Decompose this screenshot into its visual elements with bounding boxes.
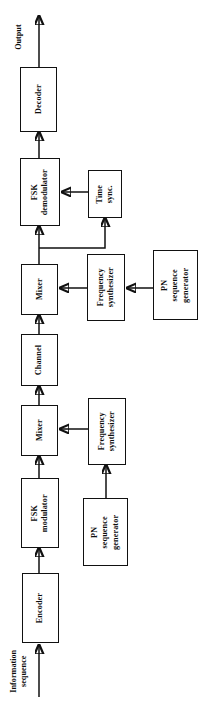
block-decoder[interactable]: Decoder (20, 67, 57, 132)
block-fsk-modulator-label: FSK modulator (30, 494, 51, 532)
block-channel[interactable]: Channel (21, 334, 58, 386)
fsk-mod-line2: modulator (40, 494, 49, 532)
block-time-sync[interactable]: Time sync. (88, 170, 122, 218)
information-sequence-label-text: PNInformationsequence (9, 650, 30, 693)
output-label: Output (6, 8, 32, 66)
block-frequency-synthesizer-receiver[interactable]: Frequency synthesizer (87, 254, 125, 321)
freq-synth-tx-line2: synthesizer (107, 411, 116, 451)
block-fsk-demodulator[interactable]: FSK demodulator (20, 158, 60, 226)
block-pn-sequence-generator-transmitter[interactable]: PN sequence generator (83, 498, 128, 566)
block-mixer-transmitter[interactable]: Mixer (21, 405, 58, 456)
output-label-text: Output (14, 24, 24, 49)
block-decoder-label: Decoder (33, 85, 43, 115)
fsk-demod-line2: demodulator (40, 169, 49, 215)
pn-gen-tx-line1: PN (90, 526, 99, 537)
block-pn-sequence-generator-transmitter-label: PN sequence generator (90, 515, 121, 550)
pn-gen-tx-line3: generator (111, 515, 120, 550)
freq-synth-tx-line1: Frequency (97, 412, 106, 450)
block-diagram: Output PNInformationsequence Decoder FSK… (0, 0, 211, 709)
block-channel-label: Channel (34, 345, 44, 375)
pn-gen-rx-line3: generator (181, 268, 190, 303)
block-mixer-receiver-label: Mixer (34, 279, 44, 301)
block-fsk-modulator[interactable]: FSK modulator (21, 478, 59, 548)
block-encoder-label: Encoder (35, 593, 45, 623)
block-frequency-synthesizer-receiver-label: Frequency synthesizer (96, 267, 117, 307)
block-fsk-demodulator-label: FSK demodulator (30, 169, 51, 215)
fsk-mod-line1: FSK (30, 505, 39, 521)
information-sequence-line1: Information (9, 650, 18, 693)
time-sync-line1: Time (95, 185, 104, 203)
pn-gen-rx-line1: PN (160, 279, 169, 290)
information-sequence-line2: sequence (19, 655, 28, 686)
freq-synth-rx-line1: Frequency (96, 268, 105, 306)
time-sync-line2: sync. (105, 185, 114, 203)
block-time-sync-label: Time sync. (95, 185, 116, 203)
pn-gen-rx-line2: sequence (170, 269, 179, 301)
block-mixer-transmitter-label: Mixer (34, 420, 44, 442)
pn-gen-tx-line2: sequence (100, 516, 109, 548)
information-sequence-label: PNInformationsequence (4, 640, 34, 702)
block-encoder[interactable]: Encoder (22, 573, 59, 643)
block-frequency-synthesizer-transmitter[interactable]: Frequency synthesizer (88, 398, 126, 465)
block-frequency-synthesizer-transmitter-label: Frequency synthesizer (97, 411, 118, 451)
fsk-demod-line1: FSK (30, 184, 39, 200)
block-pn-sequence-generator-receiver-label: PN sequence generator (160, 268, 191, 303)
freq-synth-rx-line2: synthesizer (106, 267, 115, 307)
block-mixer-receiver[interactable]: Mixer (21, 264, 58, 315)
block-pn-sequence-generator-receiver[interactable]: PN sequence generator (153, 250, 198, 320)
